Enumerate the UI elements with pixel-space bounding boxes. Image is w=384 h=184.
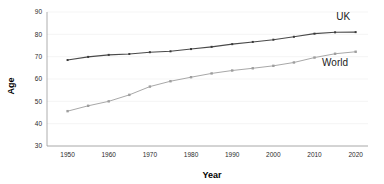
data-point-marker-uk <box>314 33 316 35</box>
data-point-marker-uk <box>231 43 233 45</box>
data-point-marker-world <box>87 105 89 107</box>
data-point-marker-world <box>108 100 110 102</box>
x-tick-label: 2020 <box>348 151 363 158</box>
data-point-marker-world <box>293 61 295 63</box>
x-tick-label: 2010 <box>307 151 322 158</box>
y-tick-label: 70 <box>35 53 43 60</box>
chart-canvas: 30405060708090 1950196019701980199020002… <box>0 0 384 184</box>
x-tick-label: 1980 <box>184 151 199 158</box>
data-point-marker-uk <box>169 50 171 52</box>
data-point-marker-uk <box>149 51 151 53</box>
data-point-marker-uk <box>355 31 357 33</box>
y-tick-label: 60 <box>35 75 43 82</box>
life-expectancy-line-chart: 30405060708090 1950196019701980199020002… <box>0 0 384 184</box>
data-point-marker-world <box>252 67 254 69</box>
data-point-marker-world <box>149 85 151 87</box>
data-point-marker-uk <box>67 59 69 61</box>
data-point-marker-world <box>272 65 274 67</box>
data-point-marker-world <box>128 94 130 96</box>
x-tick-label: 1990 <box>225 151 240 158</box>
data-point-marker-uk <box>272 39 274 41</box>
data-point-marker-world <box>313 56 315 58</box>
series-label-uk: UK <box>336 11 350 22</box>
data-point-marker-world <box>190 76 192 78</box>
data-point-marker-world <box>354 51 356 53</box>
y-tick-label: 30 <box>35 142 43 149</box>
data-point-marker-uk <box>128 53 130 55</box>
data-point-marker-uk <box>252 41 254 43</box>
y-tick-label: 80 <box>35 31 43 38</box>
data-point-marker-uk <box>108 54 110 56</box>
data-point-marker-world <box>231 69 233 71</box>
x-tick-label: 1960 <box>101 151 116 158</box>
y-tick-label: 90 <box>35 8 43 15</box>
series-label-world: World <box>322 57 348 68</box>
y-tick-label: 50 <box>35 98 43 105</box>
data-point-marker-uk <box>293 36 295 38</box>
y-axis-title: Age <box>6 77 16 94</box>
x-tick-label: 2000 <box>266 151 281 158</box>
data-point-marker-uk <box>211 46 213 48</box>
data-point-marker-world <box>66 110 68 112</box>
x-tick-label: 1970 <box>143 151 158 158</box>
data-point-marker-uk <box>190 48 192 50</box>
x-tick-label: 1950 <box>60 151 75 158</box>
y-tick-label: 40 <box>35 120 43 127</box>
data-point-marker-uk <box>334 31 336 33</box>
data-point-marker-uk <box>87 56 89 58</box>
data-point-marker-world <box>210 72 212 74</box>
data-point-marker-world <box>334 53 336 55</box>
data-point-marker-world <box>169 80 171 82</box>
x-axis-title: Year <box>202 170 222 180</box>
